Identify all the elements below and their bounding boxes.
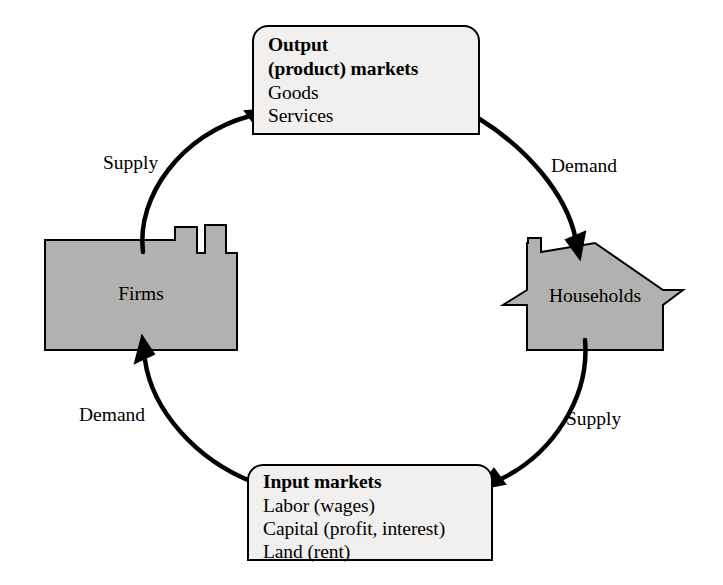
firms-label: Firms (45, 283, 237, 305)
output-markets-item-goods: Goods (268, 81, 478, 104)
output-markets-item-services: Services (268, 104, 478, 127)
input-markets-item-land: Land (rent) (263, 540, 491, 563)
flow-label-supply-top: Supply (103, 152, 158, 174)
output-markets-title-line2: (product) markets (268, 57, 478, 81)
flow-arrow-demand-bottom (135, 336, 253, 482)
flow-label-supply-bottom: Supply (566, 408, 621, 430)
input-markets-item-labor: Labor (wages) (263, 494, 491, 517)
households-label: Households (527, 285, 663, 307)
input-markets-item-capital: Capital (profit, interest) (263, 517, 491, 540)
input-markets-title: Input markets (263, 470, 491, 494)
output-markets-title-line1: Output (268, 33, 478, 57)
input-markets-box: Input markets Labor (wages) Capital (pro… (247, 464, 493, 561)
flow-label-demand-top: Demand (551, 155, 617, 177)
flow-label-demand-bottom: Demand (79, 404, 145, 426)
output-markets-box: Output (product) markets Goods Services (252, 25, 480, 135)
circular-flow-diagram: Output (product) markets Goods Services … (0, 0, 723, 585)
